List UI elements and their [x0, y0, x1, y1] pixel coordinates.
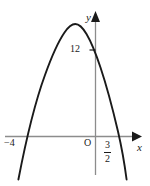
fraction-denominator: 2	[104, 154, 111, 165]
y-intercept-label: 12	[70, 44, 80, 54]
left-root-label: −4	[4, 138, 15, 148]
right-root-label: 3 2	[104, 140, 111, 164]
x-axis-label: x	[137, 142, 142, 153]
y-axis-arrowhead	[91, 11, 100, 22]
x-axis-arrowhead	[132, 132, 142, 142]
graph-canvas	[0, 0, 150, 186]
fraction-numerator: 3	[104, 140, 111, 151]
fraction: 3 2	[104, 140, 111, 164]
origin-label: O	[84, 138, 91, 148]
y-axis-label: y	[86, 12, 91, 23]
parabola-figure: y x O 12 −4 3 2	[0, 0, 150, 186]
